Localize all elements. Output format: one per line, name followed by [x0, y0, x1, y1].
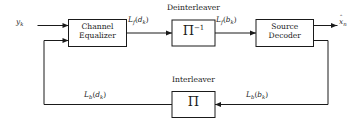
hat-accent-icon: ˆ	[339, 15, 342, 22]
paren-close: )	[146, 15, 149, 24]
block-label-source-decoder-line1: Source	[271, 22, 298, 31]
glyph-interleaver-pi: Π	[172, 95, 215, 110]
block-label-source-decoder: Source Decoder	[256, 23, 314, 40]
diagram-wiring	[0, 0, 362, 130]
signal-label-backward-dk: Lb(dk)	[84, 91, 106, 101]
paren-close: )	[103, 90, 106, 99]
interleaver-pi-symbol: Π	[188, 94, 199, 109]
wire-decoder-to-interleaver	[215, 41, 328, 105]
paren-close: )	[265, 90, 268, 99]
section-title-interleaver: Interleaver	[155, 76, 232, 85]
signal-label-forward-bk: Lf(bk)	[216, 16, 237, 26]
deinterleaver-pi-exponent: −1	[194, 24, 204, 32]
signal-output-sub: n	[343, 21, 346, 27]
glyph-deinterleaver-pi-inverse: Π−1	[172, 24, 215, 39]
signal-input-sub: k	[20, 21, 23, 27]
block-diagram: yk Channel Equalizer Lf(dk) Deinterleave…	[0, 0, 362, 130]
signal-label-forward-dk: Lf(dk)	[128, 16, 149, 26]
block-label-channel-equalizer-line1: Channel	[82, 22, 114, 31]
block-label-source-decoder-line2: Decoder	[256, 32, 314, 41]
signal-label-input: yk	[16, 18, 23, 28]
deinterleaver-pi-symbol: Π	[183, 23, 194, 38]
section-title-deinterleaver: Deinterleaver	[153, 4, 234, 13]
arrowhead-decoder-to-interleaver	[215, 102, 221, 107]
arrowhead-decoder-to-output	[331, 23, 337, 28]
block-label-channel-equalizer: Channel Equalizer	[69, 23, 127, 40]
block-label-channel-equalizer-line2: Equalizer	[69, 32, 127, 41]
wire-interleaver-to-equalizer	[44, 41, 172, 105]
signal-label-output: ˆxn	[339, 18, 347, 28]
signal-label-backward-bk: Lb(bk)	[246, 91, 268, 101]
signal-output-hat-group: ˆx	[339, 18, 343, 26]
paren-close: )	[234, 15, 237, 24]
